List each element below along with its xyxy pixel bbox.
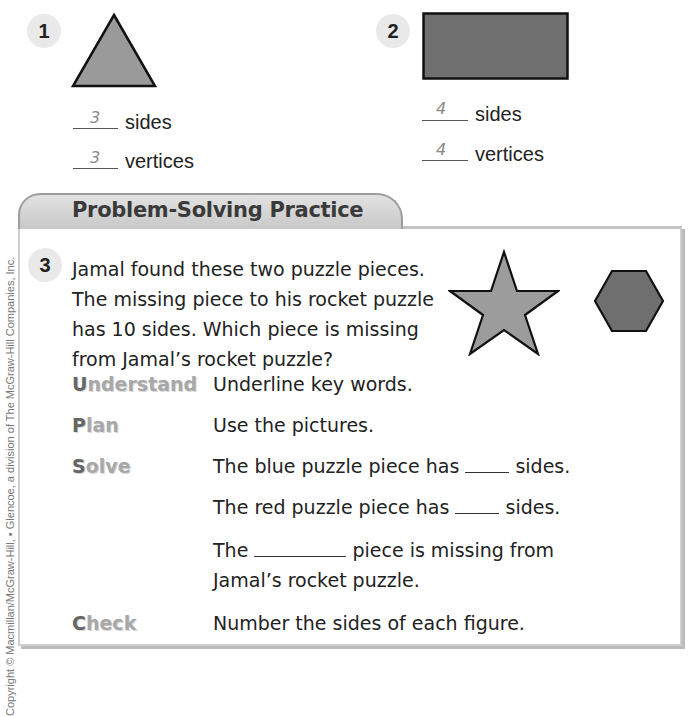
solve-text: sides. <box>506 496 561 518</box>
label-sides-2: sides <box>475 103 522 126</box>
label-vertices-1: vertices <box>125 150 194 173</box>
handwritten-answer-vertices-2: 4 <box>436 140 446 159</box>
exercise-number-2: 2 <box>376 14 410 48</box>
solve-text: piece is missing from <box>352 539 554 561</box>
section-title: Problem-Solving Practice <box>72 198 363 222</box>
rectangle-figure <box>422 12 570 81</box>
solve-line-missing: The piece is missing from Jamal’s rocket… <box>213 535 554 595</box>
copyright-notice: Copyright © Macmillan/McGraw-Hill, • Gle… <box>4 296 16 716</box>
question-text: Jamal found these two puzzle pieces. The… <box>72 254 452 374</box>
step-text-understand: Underline key words. <box>213 369 413 399</box>
blank-missing-piece[interactable] <box>254 538 346 557</box>
question-line: The missing piece to his rocket puzzle <box>72 284 452 314</box>
question-line: has 10 sides. Which piece is missing <box>72 314 452 344</box>
label-sides-1: sides <box>125 111 172 134</box>
label-vertices-2: vertices <box>475 143 544 166</box>
step-label-solve: Solve <box>72 455 131 477</box>
step-label-understand: Understand <box>72 373 197 395</box>
solve-text: Jamal’s rocket puzzle. <box>213 565 554 595</box>
solve-text: sides. <box>515 455 570 477</box>
hexagon-figure <box>593 268 665 334</box>
solve-text: The blue puzzle piece has <box>213 455 459 477</box>
step-text-check: Number the sides of each figure. <box>213 608 525 638</box>
step-text-plan: Use the pictures. <box>213 410 374 440</box>
solve-text: The <box>213 539 248 561</box>
step-label-plan: Plan <box>72 414 119 436</box>
triangle-figure <box>70 12 160 90</box>
blank-red-sides[interactable] <box>455 495 499 514</box>
handwritten-answer-sides-1: 3 <box>90 108 100 127</box>
solve-text: The red puzzle piece has <box>213 496 449 518</box>
handwritten-answer-sides-2: 4 <box>436 99 446 118</box>
solve-line-blue: The blue puzzle piece has sides. <box>213 451 570 481</box>
step-label-check: Check <box>72 612 136 634</box>
exercise-number-3: 3 <box>28 248 62 282</box>
exercise-number-1: 1 <box>27 14 61 48</box>
handwritten-answer-vertices-1: 3 <box>90 148 100 167</box>
blank-blue-sides[interactable] <box>465 454 509 473</box>
star-figure <box>448 248 560 356</box>
question-line: Jamal found these two puzzle pieces. <box>72 254 452 284</box>
solve-line-red: The red puzzle piece has sides. <box>213 492 560 522</box>
